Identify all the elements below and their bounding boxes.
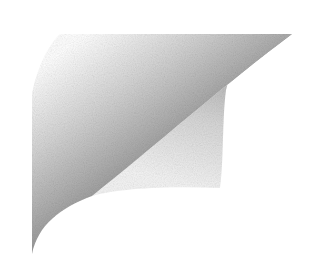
page-curl-icon	[0, 0, 328, 272]
page-curl-graphic	[0, 0, 328, 272]
